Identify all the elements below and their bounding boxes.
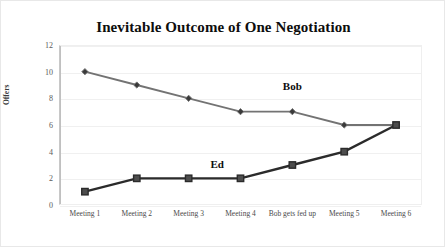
data-point-marker-bob — [341, 122, 347, 128]
gridline — [60, 206, 421, 207]
data-point-marker-ed — [82, 188, 88, 194]
y-axis-tick-labels: 024681012 — [1, 45, 59, 205]
y-axis-tick-label: 8 — [49, 94, 53, 103]
y-axis-tick-label: 12 — [45, 41, 53, 50]
y-axis-tick-label: 6 — [49, 121, 53, 130]
data-point-marker-bob — [186, 95, 192, 101]
y-axis-tick-label: 4 — [49, 147, 53, 156]
data-point-marker-ed — [185, 175, 191, 181]
y-axis-tick-label: 0 — [49, 201, 53, 210]
x-axis-tick-label: Meeting 5 — [329, 209, 360, 218]
data-point-marker-ed — [134, 175, 140, 181]
x-axis-tick-label: Bob gets fed up — [269, 209, 316, 218]
data-point-marker-bob — [289, 109, 295, 115]
data-point-marker-ed — [289, 162, 295, 168]
x-axis-tick-label: Meeting 2 — [121, 209, 152, 218]
x-axis-tick-label: Meeting 3 — [173, 209, 204, 218]
series-label-ed: Ed — [210, 158, 223, 170]
data-point-marker-ed — [341, 148, 347, 154]
x-axis-tick-label: Meeting 1 — [70, 209, 101, 218]
x-axis-tick-label: Meeting 4 — [225, 209, 256, 218]
series-overlay — [59, 45, 422, 205]
x-axis-tick-labels: Meeting 1Meeting 2Meeting 3Meeting 4Bob … — [59, 209, 422, 229]
y-axis-tick-label: 2 — [49, 174, 53, 183]
data-point-marker-bob — [134, 82, 140, 88]
x-axis-tick-label: Meeting 6 — [381, 209, 412, 218]
chart-title: Inevitable Outcome of One Negotiation — [1, 19, 445, 36]
series-label-bob: Bob — [283, 80, 302, 92]
data-point-marker-bob — [237, 109, 243, 115]
data-point-marker-ed — [237, 175, 243, 181]
data-point-marker-ed — [393, 122, 399, 128]
series-line-bob — [85, 72, 396, 125]
chart-figure: Inevitable Outcome of One Negotiation Of… — [0, 0, 445, 247]
data-point-marker-bob — [82, 69, 88, 75]
y-axis-tick-label: 10 — [45, 67, 53, 76]
